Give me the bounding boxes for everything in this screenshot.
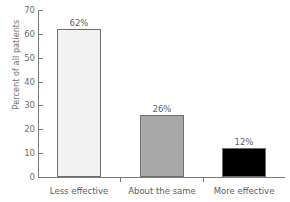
x-axis-line [38, 177, 285, 178]
y-axis-tick-mark [39, 153, 43, 154]
bar-value-label: 62% [70, 18, 89, 28]
y-axis-tick-mark [39, 177, 43, 178]
y-axis-tick-label: 30 [24, 100, 35, 110]
y-axis-tick-mark [39, 34, 43, 35]
y-axis-tick-mark [39, 82, 43, 83]
plot-area: 010203040506070 62%26%12% Less effective… [38, 10, 285, 178]
x-axis-category-label: About the same [128, 186, 196, 196]
y-axis-tick-label: 50 [24, 53, 35, 63]
x-axis-tick-mark [203, 178, 204, 182]
y-axis-tick-label: 60 [24, 29, 35, 39]
y-axis-tick-mark [39, 105, 43, 106]
bar: 12% [222, 148, 266, 177]
bar-value-label: 12% [235, 137, 254, 147]
x-axis-category-label: More effective [214, 186, 275, 196]
y-axis-tick-label: 0 [30, 172, 35, 182]
y-axis-tick-label: 70 [24, 5, 35, 15]
y-axis-title: Percent of all patients [12, 0, 21, 135]
y-axis-tick-label: 40 [24, 77, 35, 87]
y-axis-tick-mark [39, 10, 43, 11]
y-axis-tick-mark [39, 58, 43, 59]
y-axis-tick-mark [39, 129, 43, 130]
y-axis-tick-label: 10 [24, 148, 35, 158]
bar-chart: Percent of all patients 010203040506070 … [0, 0, 290, 202]
bar: 26% [140, 115, 184, 177]
y-axis-tick-label: 20 [24, 124, 35, 134]
x-axis-tick-mark [120, 178, 121, 182]
bar: 62% [57, 29, 101, 177]
bar-value-label: 26% [153, 104, 172, 114]
x-axis-category-label: Less effective [50, 186, 108, 196]
